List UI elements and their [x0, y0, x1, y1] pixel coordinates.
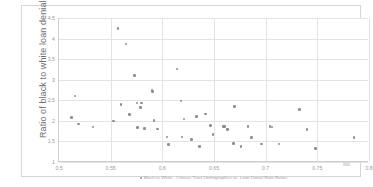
- data-point: [240, 145, 243, 148]
- y-tick-label: 2: [52, 118, 55, 124]
- data-point: [233, 105, 236, 108]
- data-point: [92, 126, 95, 129]
- data-point: [298, 108, 301, 111]
- data-point: [166, 136, 169, 139]
- data-point: [167, 143, 170, 146]
- gridline-vertical: [317, 18, 318, 161]
- data-point: [223, 125, 226, 128]
- data-point: [117, 27, 120, 30]
- data-point: [195, 115, 198, 118]
- chart-outer-frame: Ratio of black to white loan denial rate…: [21, 5, 361, 177]
- data-point: [190, 138, 193, 141]
- data-point: [77, 123, 80, 126]
- legend-label: Black vs White - Census Tract Demographi…: [144, 175, 288, 180]
- gridline-vertical: [162, 18, 163, 161]
- data-point: [136, 102, 139, 105]
- data-point: [204, 113, 207, 116]
- gridline-vertical: [266, 18, 267, 161]
- corner-artifact: [343, 162, 350, 166]
- data-point: [70, 116, 73, 119]
- data-point: [180, 100, 183, 103]
- data-point: [271, 126, 274, 129]
- y-tick-label: 3.5: [48, 56, 55, 62]
- y-axis-title: Ratio of black to white loan denial rate…: [38, 8, 48, 138]
- gridline-vertical: [111, 18, 112, 161]
- data-point: [143, 127, 146, 130]
- x-tick-label: 0.7: [262, 165, 269, 171]
- y-tick-label: 1.5: [48, 138, 55, 144]
- y-tick-label: 4: [52, 36, 55, 42]
- data-point: [140, 102, 143, 105]
- data-point: [250, 136, 253, 139]
- x-tick-label: 0.75: [312, 165, 322, 171]
- gridline-horizontal: [59, 162, 368, 163]
- gridline-vertical: [214, 18, 215, 161]
- data-point: [181, 136, 184, 139]
- data-point: [74, 95, 77, 98]
- data-point: [278, 143, 281, 146]
- legend-marker-icon: [140, 177, 142, 179]
- data-point: [156, 128, 159, 131]
- x-tick-label: 0.6: [159, 165, 166, 171]
- plot-area: 11.522.533.544.5 0.50.550.60.650.70.750.…: [58, 18, 368, 162]
- data-point: [212, 133, 215, 136]
- data-point: [314, 147, 317, 150]
- data-point: [120, 103, 123, 106]
- data-point: [353, 136, 356, 139]
- data-point: [247, 125, 250, 128]
- gridline-vertical: [369, 18, 370, 161]
- y-tick-label: 2.5: [48, 97, 55, 103]
- data-point: [125, 43, 128, 46]
- data-point: [260, 143, 263, 146]
- data-point: [176, 68, 179, 71]
- data-point: [306, 128, 309, 131]
- data-point: [136, 126, 139, 129]
- x-tick-label: 0.65: [209, 165, 219, 171]
- x-tick-label: 0.8: [365, 165, 372, 171]
- data-point: [139, 106, 142, 109]
- data-point: [198, 145, 201, 148]
- data-point: [226, 128, 229, 131]
- y-tick-label: 4.5: [48, 15, 55, 21]
- data-point: [232, 142, 235, 145]
- x-tick-label: 0.55: [106, 165, 116, 171]
- data-point: [151, 90, 154, 93]
- data-point: [183, 118, 186, 121]
- data-point: [128, 113, 131, 116]
- y-tick-label: 3: [52, 77, 55, 83]
- chart-legend: Black vs White - Census Tract Demographi…: [59, 175, 368, 180]
- data-point: [209, 124, 212, 127]
- x-tick-label: 0.5: [55, 165, 62, 171]
- data-point: [133, 74, 136, 77]
